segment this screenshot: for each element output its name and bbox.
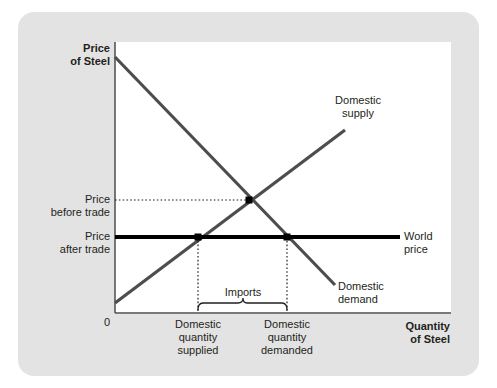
domestic-demand-label-line2: demand xyxy=(338,293,424,306)
domestic-quantity-supplied-line1: Domestic xyxy=(158,318,238,331)
origin-label: 0 xyxy=(90,316,110,329)
imports-brace xyxy=(198,298,287,310)
domestic-quantity-demanded-marker xyxy=(284,234,291,241)
price-before-trade-line2: before trade xyxy=(10,206,110,219)
domestic-demand-label: Domestic demand xyxy=(338,280,424,306)
domestic-quantity-demanded-label: Domestic quantity demanded xyxy=(247,318,327,357)
equilibrium-before-trade-marker xyxy=(246,197,253,204)
domestic-quantity-demanded-line1: Domestic xyxy=(247,318,327,331)
domestic-quantity-demanded-line3: demanded xyxy=(247,344,327,357)
imports-label: Imports xyxy=(212,286,274,299)
x-axis-title-line1: Quantity xyxy=(358,320,450,333)
domestic-quantity-supplied-line2: quantity xyxy=(158,331,238,344)
domestic-quantity-demanded-line2: quantity xyxy=(247,331,327,344)
price-before-trade-label: Price before trade xyxy=(10,193,110,219)
price-after-trade-label: Price after trade xyxy=(10,230,110,256)
x-axis-title: Quantity of Steel xyxy=(358,320,450,346)
price-before-trade-line1: Price xyxy=(10,193,110,206)
domestic-demand-curve xyxy=(115,57,335,285)
domestic-demand-label-line1: Domestic xyxy=(338,280,424,293)
price-after-trade-line1: Price xyxy=(10,230,110,243)
domestic-supply-label: Domestic supply xyxy=(318,94,398,120)
y-axis-title-line2: of Steel xyxy=(18,55,110,68)
world-price-label-line2: price xyxy=(404,243,464,256)
domestic-supply-curve xyxy=(115,130,345,303)
domestic-quantity-supplied-line3: supplied xyxy=(158,344,238,357)
x-axis-title-line2: of Steel xyxy=(358,333,450,346)
world-price-label: World price xyxy=(404,230,464,256)
domestic-supply-label-line2: supply xyxy=(318,107,398,120)
domestic-supply-label-line1: Domestic xyxy=(318,94,398,107)
y-axis-title-line1: Price xyxy=(18,42,110,55)
domestic-quantity-supplied-label: Domestic quantity supplied xyxy=(158,318,238,357)
world-price-label-line1: World xyxy=(404,230,464,243)
domestic-quantity-supplied-marker xyxy=(195,234,202,241)
supply-demand-figure: Price of Steel Quantity of Steel 0 Price… xyxy=(0,0,497,388)
y-axis-title: Price of Steel xyxy=(18,42,110,68)
price-after-trade-line2: after trade xyxy=(10,243,110,256)
